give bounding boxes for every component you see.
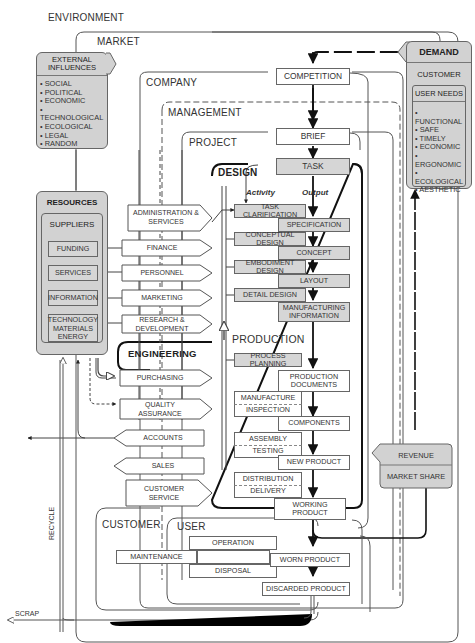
revenue-label: REVENUE [380,451,452,460]
market-share-label: MARKET SHARE [380,472,452,481]
output-discarded-product: DISCARDED PRODUCT [262,582,350,596]
activity-operation: OPERATION [189,536,277,550]
activity-maintenance: MAINTENANCE [116,550,197,564]
scrap-label: SCRAP [15,610,39,617]
activity-disposal: DISPOSAL [189,564,277,578]
recycle-label: RECYCLE [48,507,55,540]
output-worn-product: WORN PRODUCT [270,553,350,567]
activity-maintenance-ext [197,550,270,564]
